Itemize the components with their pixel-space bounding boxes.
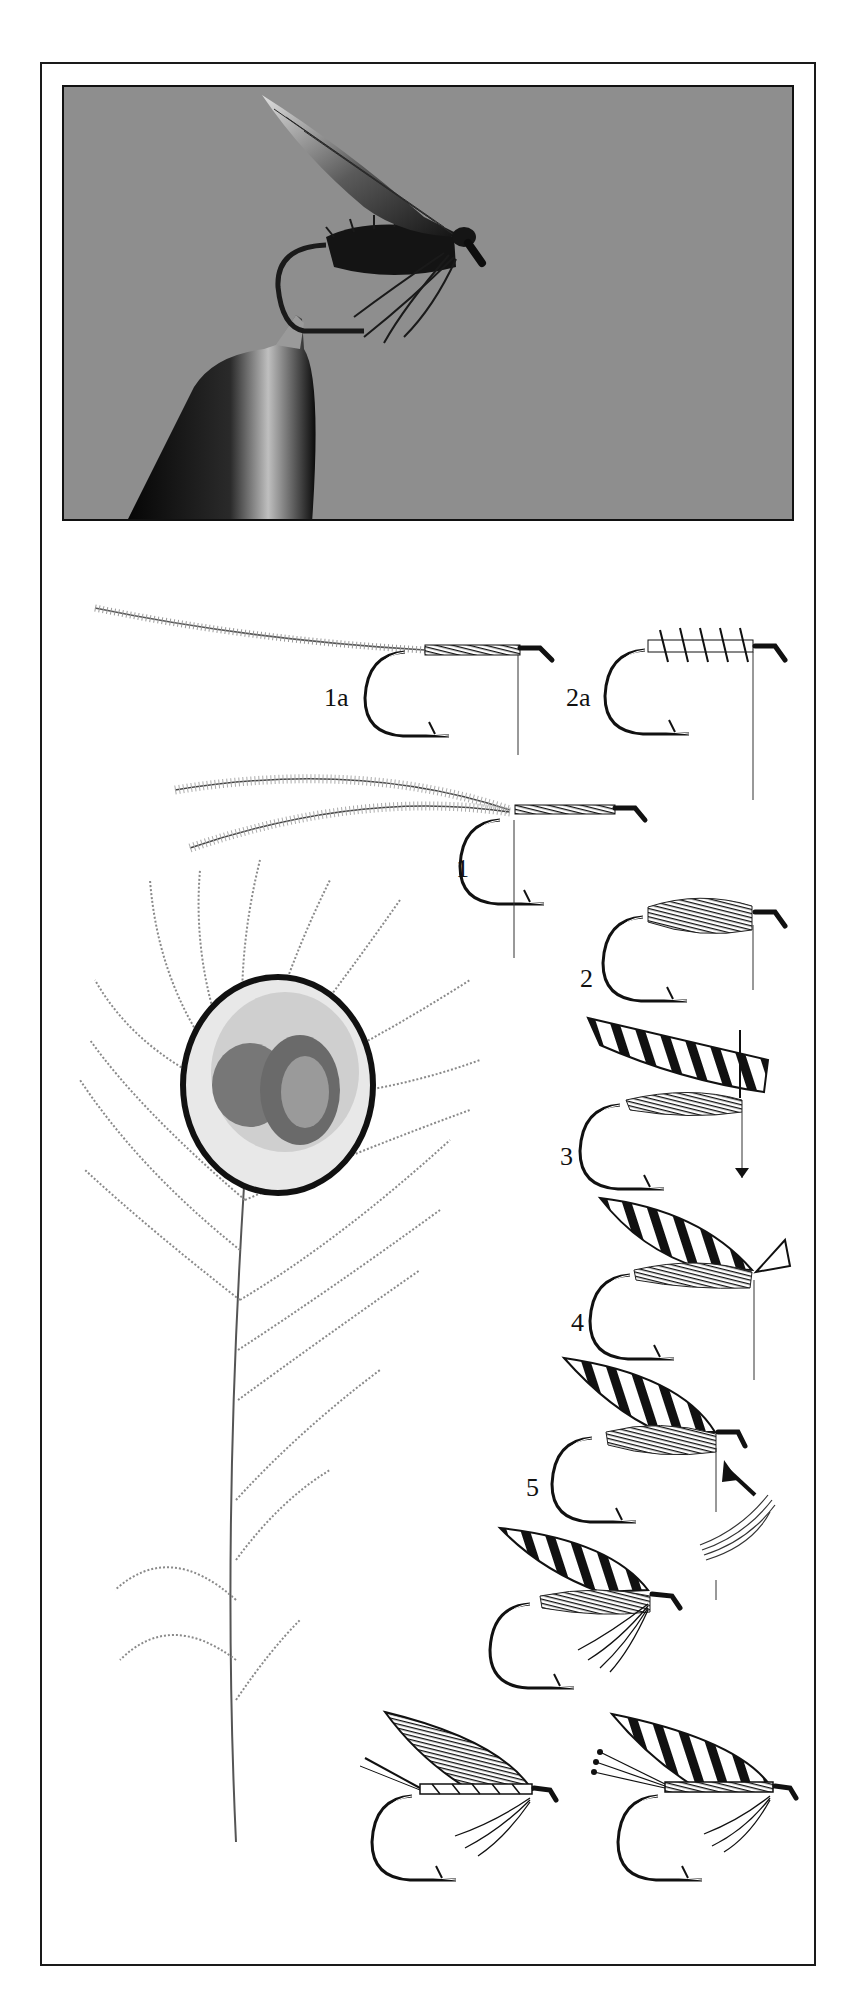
wet-fly-photo-icon: [64, 87, 794, 521]
step-label-2: 2: [580, 966, 593, 992]
step-label-5: 5: [526, 1475, 539, 1501]
fly-photo: [62, 85, 794, 521]
step-label-2a: 2a: [566, 685, 591, 711]
step-label-4: 4: [571, 1310, 584, 1336]
step-label-1: 1: [456, 856, 469, 882]
step-label-3: 3: [560, 1144, 573, 1170]
step-label-1a: 1a: [324, 685, 349, 711]
